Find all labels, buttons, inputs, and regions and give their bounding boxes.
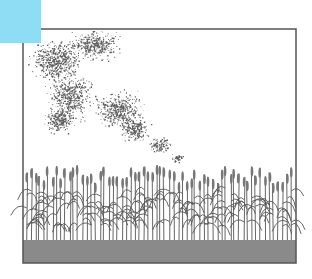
ground-strip <box>23 240 296 263</box>
swarm-cloud <box>28 31 184 163</box>
crop-field <box>11 165 305 242</box>
illustration-scene <box>0 0 312 279</box>
corner-color-block <box>0 0 41 43</box>
